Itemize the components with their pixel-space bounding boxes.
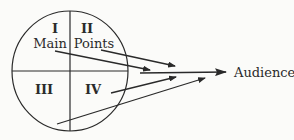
quadrant-3-numeral: III [35, 82, 53, 97]
arrow-main [55, 51, 150, 70]
arrows [55, 50, 226, 124]
quadrant-1-word: Main [33, 36, 67, 51]
arrow-main-to-audience [140, 72, 226, 73]
quadrant-1-numeral: I [52, 21, 58, 36]
arrow-iii [57, 78, 205, 124]
communication-diagram: I Main II Points III IV Audience [0, 0, 294, 140]
quadrant-2-numeral: II [81, 21, 93, 36]
audience-label: Audience [233, 65, 294, 80]
quadrant-4-numeral: IV [85, 82, 102, 97]
quadrant-2-word: Points [74, 36, 114, 51]
message-circle [12, 11, 128, 131]
arrow-points [101, 50, 175, 66]
